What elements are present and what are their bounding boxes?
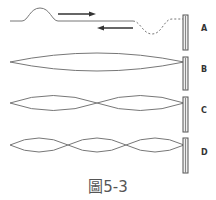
- label-d: D: [201, 148, 208, 157]
- figure-caption: 圖5-3: [0, 175, 216, 196]
- standing-wave-diagram: [0, 0, 216, 200]
- panel-d: [10, 138, 188, 173]
- panel-c: [10, 96, 188, 133]
- reflected-pulse-dashed: [133, 19, 184, 34]
- panel-a: [10, 8, 188, 50]
- pole-b: [183, 57, 188, 90]
- standing-wave-1-loop: [10, 53, 184, 71]
- pole-a: [183, 15, 188, 50]
- pole-d: [183, 138, 188, 173]
- arrow-left-icon: [97, 26, 133, 31]
- label-a: A: [201, 24, 207, 33]
- label-c: C: [201, 106, 207, 115]
- standing-wave-2-loops: [10, 96, 184, 111]
- panel-b: [10, 53, 188, 90]
- arrow-right-icon: [58, 12, 96, 17]
- standing-wave-3-loops: [10, 138, 184, 152]
- label-b: B: [201, 65, 207, 74]
- pole-c: [183, 97, 188, 132]
